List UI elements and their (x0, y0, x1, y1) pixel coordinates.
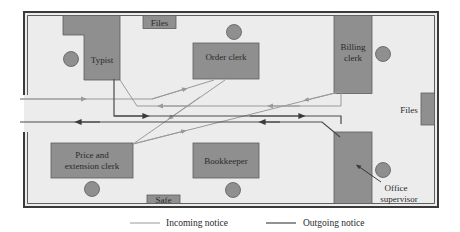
billing-clerk-label-1: Billing (340, 42, 366, 52)
billing-clerk-label-2: clerk (344, 53, 362, 63)
chair-icon (64, 52, 79, 67)
legend-incoming-label: Incoming notice (166, 218, 228, 228)
price-clerk-label-1: Price and (75, 150, 109, 160)
office-supervisor-label-2: supervisor (380, 194, 418, 204)
price-clerk-label-2: extension clerk (65, 161, 120, 171)
chair-icon (85, 182, 100, 197)
files-right (421, 93, 435, 125)
office-supervisor-desk (334, 132, 372, 204)
safe-label: Safe (156, 195, 172, 205)
bookkeeper-label: Bookkeeper (204, 156, 247, 166)
chair-icon (227, 25, 242, 40)
legend: Incoming notice Outgoing notice (130, 218, 364, 228)
office-supervisor-label-1: Office (385, 183, 408, 193)
typist-label: Typist (91, 55, 114, 65)
chair-icon (376, 47, 391, 62)
order-clerk-label: Order clerk (205, 52, 247, 62)
chair-icon (376, 163, 391, 178)
files-top-label: Files (151, 18, 169, 28)
office-flow-diagram: Typist Files Order clerk Billing clerk F… (0, 0, 460, 232)
legend-outgoing-label: Outgoing notice (303, 218, 364, 228)
files-right-label: Files (400, 105, 418, 115)
chair-icon (226, 183, 241, 198)
